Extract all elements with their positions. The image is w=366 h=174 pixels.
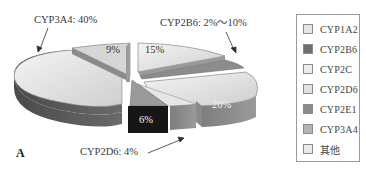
legend-label: CYP3A4 [320, 124, 358, 135]
legend-label: CYP1A2 [320, 24, 358, 35]
panel-label: A [16, 146, 25, 161]
legend-item-cyp3a4: CYP3A4 [303, 123, 358, 135]
legend-swatch [303, 24, 313, 34]
legend-label: CYP2D6 [320, 84, 358, 95]
legend-swatch [303, 84, 313, 94]
legend-item-cyp2b6: CYP2B6 [303, 43, 357, 55]
annotation-cyp3a4: CYP3A4: 40% [34, 14, 97, 25]
legend-item-cyp2d6: CYP2D6 [303, 83, 358, 95]
legend-swatch [303, 124, 313, 134]
legend-label: CYP2B6 [320, 44, 357, 55]
legend-item-other: 其他 [303, 143, 340, 155]
legend-swatch [303, 64, 313, 74]
pct-label-other: 9% [106, 44, 120, 55]
legend-label: CYP2C [320, 64, 352, 75]
legend-swatch [303, 144, 313, 154]
annotation-cyp2b6: CYP2B6: 2%～10% [160, 14, 247, 29]
pct-label-cyp2e1: 6% [139, 114, 153, 125]
legend-item-cyp2e1: CYP2E1 [303, 103, 357, 115]
legend-label: 其他 [320, 142, 340, 157]
legend-label: CYP2E1 [320, 104, 357, 115]
legend-item-cyp2c: CYP2C [303, 63, 352, 75]
annotation-cyp2d6: CYP2D6: 4% [80, 146, 138, 157]
legend: CYP1A2 CYP2B6 CYP2C CYP2D6 CYP2E1 CYP3A4… [296, 14, 360, 162]
legend-swatch [303, 44, 313, 54]
legend-item-cyp1a2: CYP1A2 [303, 23, 358, 35]
pct-label-cyp2c: 20% [212, 99, 231, 110]
pct-label-cyp1a2: 15% [145, 44, 164, 55]
legend-swatch [303, 104, 313, 114]
